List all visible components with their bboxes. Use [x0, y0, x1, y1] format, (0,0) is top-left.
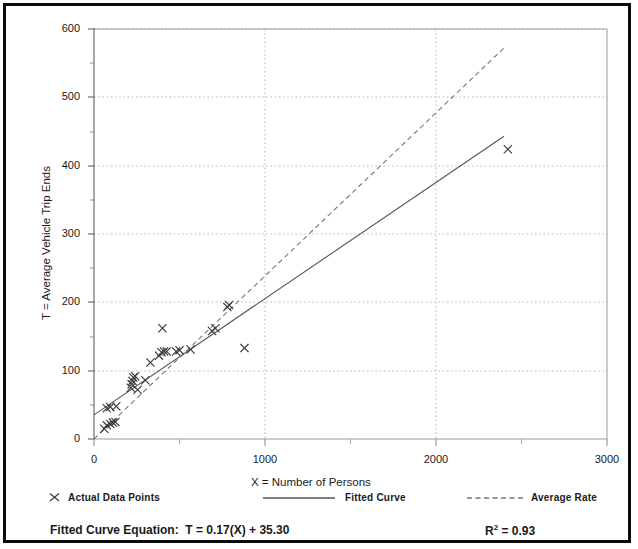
x-tick-label-2000: 2000 [411, 453, 461, 465]
legend-marker-actual-data-points [47, 490, 63, 504]
y-axis-title: T = Average Vehicle Trip Ends [40, 166, 52, 320]
legend-label-actual-data-points: Actual Data Points [68, 492, 160, 503]
chart-canvas [0, 0, 638, 549]
y-tick-label-500: 500 [46, 90, 80, 102]
x-axis-minor-ticks [180, 439, 522, 444]
data-point-marker [240, 344, 248, 352]
x-axis-title: X = Number of Persons [251, 476, 371, 488]
r-squared-value: R2 = 0.93 [485, 523, 535, 538]
x-tick-label-3000: 3000 [582, 453, 632, 465]
data-point-marker [112, 402, 120, 410]
fitted-curve-line [94, 136, 504, 415]
data-point-marker [158, 324, 166, 332]
y-tick-label-100: 100 [46, 364, 80, 376]
r-squared-number: = 0.93 [501, 524, 535, 538]
data-point-marker [211, 324, 219, 332]
x-tick-label-0: 0 [69, 453, 119, 465]
data-point-markers [100, 145, 512, 433]
fitted-equation-value: T = 0.17(X) + 35.30 [185, 523, 289, 537]
average-rate-line [94, 48, 504, 439]
r-symbol: R [485, 524, 494, 538]
legend-label-average-rate: Average Rate [531, 492, 597, 503]
legend-marker-average-rate [467, 495, 523, 501]
y-tick-label-0: 0 [46, 432, 80, 444]
fitted-equation-prefix: Fitted Curve Equation: [50, 523, 179, 537]
fitted-equation-label: Fitted Curve Equation: T = 0.17(X) + 35.… [50, 523, 289, 537]
x-tick-label-1000: 1000 [240, 453, 290, 465]
data-point-marker [141, 376, 149, 384]
r-exponent: 2 [494, 523, 498, 532]
legend-label-fitted-curve: Fitted Curve [345, 492, 406, 503]
data-point-marker [134, 386, 142, 394]
y-axis-ticks [88, 29, 94, 439]
data-point-marker [172, 347, 180, 355]
legend-marker-fitted-curve [263, 495, 335, 501]
data-point-marker [146, 358, 154, 366]
data-point-marker [175, 346, 183, 354]
horizontal-gridlines [94, 29, 607, 371]
data-point-marker [504, 145, 512, 153]
y-tick-label-600: 600 [46, 22, 80, 34]
